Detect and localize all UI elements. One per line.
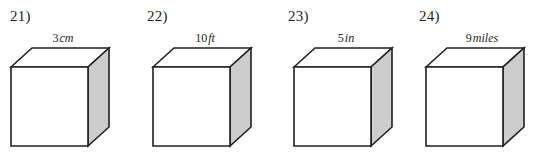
edge-length-value: 3 <box>53 31 59 45</box>
edge-length-label: 10ft <box>160 31 250 45</box>
edge-length-unit: in <box>344 31 354 45</box>
cube-front-face <box>153 67 230 146</box>
edge-length-unit: miles <box>472 31 498 45</box>
cube-front-face <box>294 67 371 146</box>
cube-svg <box>293 47 393 148</box>
problem-item: 22) 10ft <box>133 0 270 160</box>
edge-length-label: 5in <box>301 31 391 45</box>
problem-number-label: 24) <box>419 7 440 25</box>
worksheet-problem-row: 21) 3cm 22) 10ft 23) <box>0 0 548 160</box>
cube-svg <box>152 47 252 148</box>
edge-length-value: 10 <box>195 31 207 45</box>
problem-number-label: 23) <box>288 7 309 25</box>
cube-svg <box>425 47 525 148</box>
cube-figure: 10ft <box>133 33 270 148</box>
edge-length-label: 3cm <box>18 31 108 45</box>
edge-length-value: 9 <box>466 31 472 45</box>
edge-length-unit: ft <box>207 31 215 45</box>
cube-front-face <box>11 67 88 146</box>
cube-figure: 3cm <box>0 33 137 148</box>
edge-length-value: 5 <box>338 31 344 45</box>
problem-number-label: 21) <box>10 7 31 25</box>
cube-figure: 9miles <box>400 33 537 148</box>
edge-length-label: 9miles <box>432 31 532 45</box>
edge-length-unit: cm <box>59 31 74 45</box>
problem-item: 24) 9miles <box>400 0 537 160</box>
problem-number-label: 22) <box>147 7 168 25</box>
cube-svg <box>10 47 110 148</box>
cube-front-face <box>426 67 503 146</box>
problem-item: 23) 5in <box>271 0 408 160</box>
problem-item: 21) 3cm <box>0 0 137 160</box>
cube-figure: 5in <box>271 33 408 148</box>
